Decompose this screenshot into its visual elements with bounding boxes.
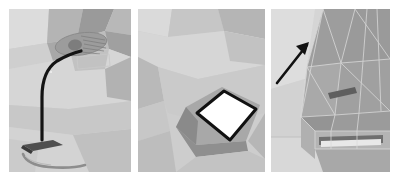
panel-1-lamp-scene — [9, 9, 131, 172]
mesh-body-mid-left — [301, 63, 341, 117]
figure-root — [0, 0, 396, 180]
panel-3-wireframe-mesh — [271, 9, 390, 172]
panel-2-render — [138, 9, 265, 172]
wall-facet-left — [9, 9, 49, 49]
panel-1-render — [9, 9, 131, 172]
arm-highlight — [50, 71, 52, 73]
mesh-base-front — [315, 149, 390, 172]
panel-2-highlighted-plane — [138, 9, 265, 172]
panel-3-render — [271, 9, 390, 172]
